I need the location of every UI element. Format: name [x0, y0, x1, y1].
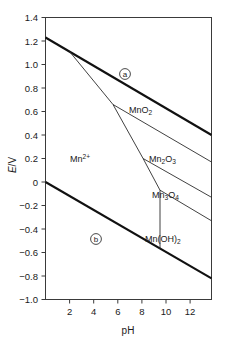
y-tick-label: 0.8	[25, 83, 38, 94]
x-axis-title: pH	[122, 325, 135, 336]
pourbaix-diagram-figure: 1.4 1.2 1.0 0.8 0.6 0.4 0.2 0 −0.2 −0.4 …	[0, 0, 225, 348]
y-tick-label: −0.8	[19, 271, 38, 282]
y-tick-label: 1.4	[25, 12, 38, 23]
y-tick-label: 1.0	[25, 59, 38, 70]
region-label-mnoh2: Mn(OH)2	[145, 234, 181, 245]
y-tick-label: 0.2	[25, 153, 38, 164]
y-tick-label: 0.6	[25, 106, 38, 117]
x-tick-label: 6	[115, 306, 120, 317]
y-tick-label: 1.2	[25, 36, 38, 47]
x-tick-label: 2	[67, 306, 72, 317]
y-axis-title-unit: /V	[7, 157, 18, 167]
chart-svg: 1.4 1.2 1.0 0.8 0.6 0.4 0.2 0 −0.2 −0.4 …	[0, 0, 225, 348]
annotation-a-label: a	[123, 70, 128, 79]
x-tick-label: 10	[161, 306, 172, 317]
y-tick-label: −0.4	[19, 224, 38, 235]
annotation-a: a	[120, 69, 131, 80]
y-axis-title: E/V	[7, 157, 18, 173]
y-tick-label: −0.6	[19, 247, 38, 258]
svg-text:E/V: E/V	[7, 157, 18, 173]
y-tick-label: 0	[33, 177, 38, 188]
x-tick-label: 8	[139, 306, 144, 317]
y-tick-label: 0.4	[25, 130, 38, 141]
y-tick-label: −0.2	[19, 200, 38, 211]
x-tick-label: 12	[185, 306, 196, 317]
x-tick-label: 4	[91, 306, 96, 317]
y-tick-label: −1.0	[19, 294, 38, 305]
annotation-b-label: b	[94, 235, 99, 244]
annotation-b: b	[91, 234, 102, 245]
